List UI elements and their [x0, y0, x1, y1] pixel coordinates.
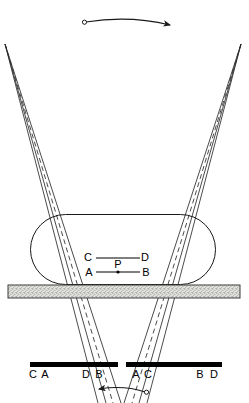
stippled-band — [8, 285, 240, 298]
object-label-c: C — [84, 251, 92, 263]
left-image-bar — [30, 362, 118, 367]
ray-diagram-figure: C D A P B C A D B A C B D — [0, 0, 249, 403]
image-label-c-right: C — [144, 368, 152, 380]
object-label-d: D — [141, 251, 149, 263]
image-label-a-right: A — [132, 368, 140, 380]
bottom-arrow-pivot-dot — [144, 390, 148, 394]
figure-background — [0, 0, 249, 403]
image-label-d-left: D — [82, 368, 90, 380]
image-label-c-left: C — [29, 368, 37, 380]
image-label-b-right: B — [196, 368, 203, 380]
image-bars — [30, 362, 222, 367]
object-point-p — [116, 270, 119, 273]
band-rect — [8, 285, 240, 298]
top-arrow-pivot-dot — [82, 20, 86, 24]
image-label-a-left: A — [41, 368, 49, 380]
ray-diagram-canvas: C D A P B C A D B A C B D — [0, 0, 249, 403]
right-image-bar — [126, 362, 222, 367]
object-label-a: A — [85, 266, 93, 278]
image-label-b-left: B — [95, 368, 102, 380]
object-label-b: B — [142, 266, 149, 278]
object-label-p: P — [114, 258, 121, 270]
image-label-d-right: D — [210, 368, 218, 380]
